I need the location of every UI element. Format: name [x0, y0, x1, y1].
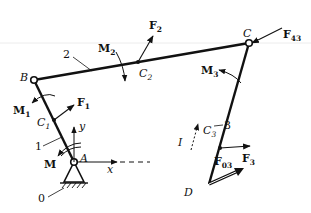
linkage-diagram: B C A D C1 C2 C3 2 1 3 0 F1 F2 F3 F43 F0…: [0, 0, 311, 213]
force-f3-arrow: [220, 146, 250, 148]
leader-link-2: [73, 57, 92, 71]
label-c: C: [243, 27, 252, 40]
force-f43-arrow: [252, 28, 282, 43]
label-y-axis: y: [78, 120, 86, 133]
label-m: M: [44, 158, 56, 171]
label-x-axis: x: [107, 163, 114, 176]
label-f1: F1: [77, 96, 90, 111]
leader-link-1: [43, 137, 62, 146]
label-m3: M3: [201, 64, 218, 79]
label-c2: C2: [139, 67, 152, 82]
joint-c: [246, 40, 253, 47]
label-f03: F03: [214, 155, 232, 170]
label-link-3: 3: [224, 119, 231, 132]
force-f1-arrow: [54, 105, 74, 120]
direction-i-arrow: [191, 124, 198, 150]
label-a: A: [79, 152, 88, 165]
force-f2-arrow: [138, 36, 153, 62]
label-link-1: 1: [35, 140, 42, 153]
label-m1: M1: [13, 104, 30, 119]
label-direction-i: I: [177, 136, 183, 149]
label-link-0: 0: [38, 192, 45, 205]
label-f43: F43: [283, 28, 301, 43]
leader-link-3: [214, 125, 223, 126]
label-link-2: 2: [63, 48, 70, 61]
label-c1: C1: [37, 116, 50, 131]
joint-b: [31, 77, 38, 84]
label-f3: F3: [242, 152, 255, 167]
force-f03-arrow: [209, 168, 244, 184]
label-b: B: [19, 71, 28, 84]
label-m2: M2: [98, 42, 115, 57]
label-d: D: [183, 186, 193, 199]
label-f2: F2: [149, 19, 162, 34]
